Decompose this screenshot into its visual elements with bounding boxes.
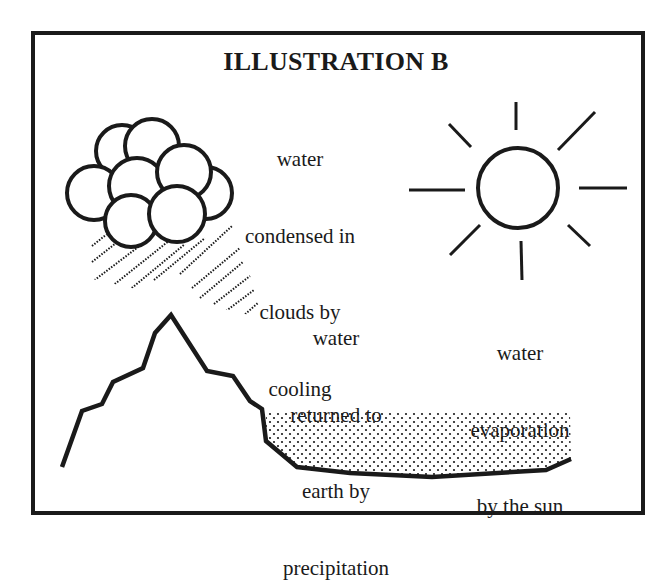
label-line: precipitation [256,556,416,582]
label-line: water [440,341,600,367]
cloud-icon [67,119,232,247]
label-line: water [220,147,380,173]
label-line: returned to [256,403,416,429]
label-evaporation: water evaporation by the sun [440,290,600,545]
label-line: water [256,326,416,352]
sun-icon [409,102,627,280]
label-precipitation: water returned to earth by precipitation [256,275,416,584]
label-line: earth by [256,479,416,505]
label-line: evaporation [440,418,600,444]
label-line: condensed in [220,224,380,250]
label-line: by the sun [440,494,600,520]
